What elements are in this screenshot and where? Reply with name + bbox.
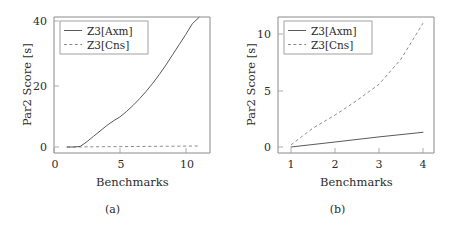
figure-container: 40 20 0 0 5 10 Benchmarks Par2 Score [s]… [0,0,450,228]
legend-label-z3-axm-a: Z3[Axm] [87,26,133,37]
ytick-label-40-a: 40 [27,16,47,27]
ytick-label-0-a: 0 [27,142,47,153]
chart-panel-b: 10 5 0 1 2 3 4 Benchmarks Par2 Score [s]… [225,0,450,228]
xtick-label-10-a: 10 [179,159,195,170]
xtick-label-1-b: 1 [286,159,296,170]
chart-panel-a: 40 20 0 0 5 10 Benchmarks Par2 Score [s]… [0,0,225,228]
series-line-z3-cns-a [67,146,199,147]
ytick-label-0-b: 0 [251,142,271,153]
series-line-z3-axm-b [291,132,423,147]
subcaption-b: (b) [225,204,450,215]
xtick-label-2-b: 2 [330,159,340,170]
subcaption-a: (a) [0,204,225,215]
ytick-label-10-b: 10 [251,29,271,40]
xtick-label-4-b: 4 [418,159,428,170]
x-axis-title-b: Benchmarks [320,177,393,189]
y-axis-title-b: Par2 Score [s] [246,43,258,126]
legend-label-z3-axm-b: Z3[Axm] [311,26,357,37]
legend-label-z3-cns-a: Z3[Cns] [87,40,129,51]
x-axis-title-a: Benchmarks [96,177,169,189]
legend-label-z3-cns-b: Z3[Cns] [311,40,353,51]
xtick-label-3-b: 3 [374,159,384,170]
xtick-label-5-a: 5 [116,159,126,170]
xtick-label-0-a: 0 [50,159,60,170]
y-axis-title-a: Par2 Score [s] [22,43,34,126]
